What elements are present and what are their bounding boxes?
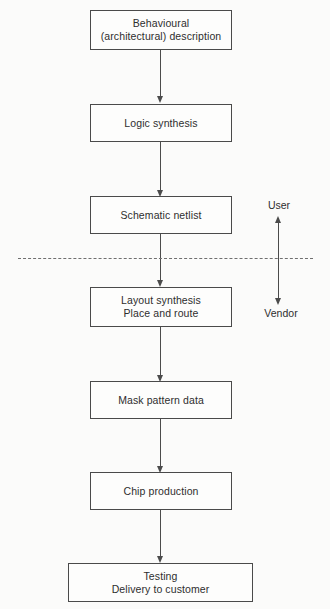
flow-box-logic-synthesis: Logic synthesis xyxy=(90,104,232,142)
flow-box-label-line2: Place and route xyxy=(123,307,198,320)
flow-box-label-line1: Layout synthesis xyxy=(121,294,201,307)
user-vendor-boundary-line xyxy=(18,258,313,259)
arrowhead-3-icon xyxy=(157,280,163,287)
flow-box-label-line1: Testing xyxy=(144,570,178,583)
flow-box-mask-pattern-data: Mask pattern data xyxy=(90,381,232,419)
vendor-label: Vendor xyxy=(264,307,297,319)
flow-box-schematic-netlist: Schematic netlist xyxy=(90,196,232,234)
flow-box-label-line1: Chip production xyxy=(123,485,198,498)
connector-4 xyxy=(160,327,161,377)
flow-box-behavioural-description: Behavioural (architectural) description xyxy=(90,10,232,50)
flow-box-label-line2: (architectural) description xyxy=(101,30,222,43)
flow-box-label-line1: Schematic netlist xyxy=(120,209,201,222)
flow-box-testing-delivery: Testing Delivery to customer xyxy=(68,563,253,602)
flow-box-label-line1: Logic synthesis xyxy=(124,117,197,130)
flow-box-label-line2: Delivery to customer xyxy=(112,583,210,596)
diagram-canvas: Behavioural (architectural) description … xyxy=(0,0,330,609)
flow-box-layout-synthesis: Layout synthesis Place and route xyxy=(90,287,232,327)
vendor-arrowhead-icon xyxy=(275,298,281,305)
arrowhead-6-icon xyxy=(157,556,163,563)
connector-6 xyxy=(160,510,161,558)
flow-box-label-line1: Behavioural xyxy=(133,17,190,30)
flow-box-label-line1: Mask pattern data xyxy=(118,394,204,407)
user-vendor-arrow-shaft xyxy=(278,221,279,303)
connector-2 xyxy=(160,142,161,192)
flow-box-chip-production: Chip production xyxy=(90,472,232,510)
connector-1 xyxy=(160,50,161,98)
user-label: User xyxy=(268,199,290,211)
arrowhead-1-icon xyxy=(157,96,163,103)
connector-5 xyxy=(160,419,161,468)
